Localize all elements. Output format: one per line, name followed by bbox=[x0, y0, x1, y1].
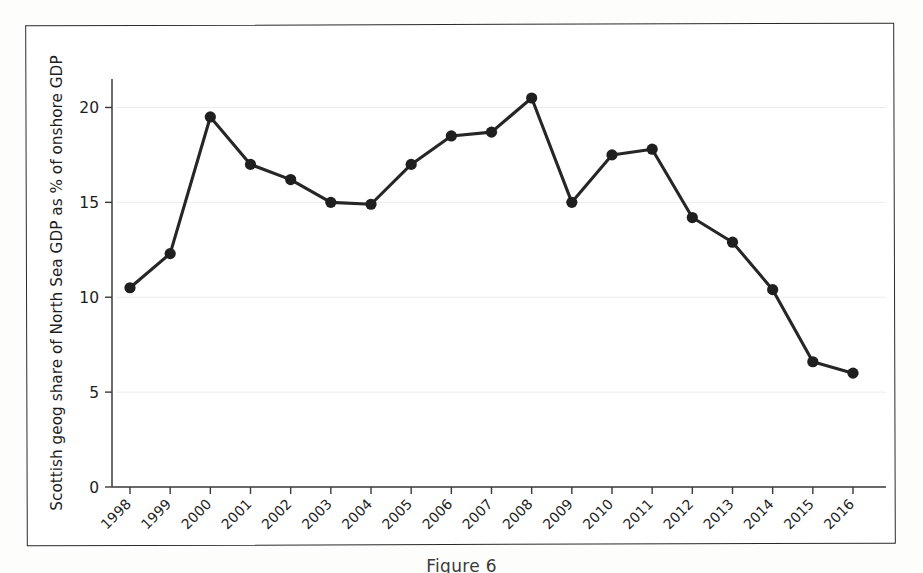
data-point-marker bbox=[727, 237, 738, 248]
line-chart: 05101520 1998199920002001200220032004200… bbox=[0, 0, 923, 573]
data-point-marker bbox=[365, 199, 376, 210]
data-point-marker bbox=[566, 197, 577, 208]
data-point-marker bbox=[807, 356, 818, 367]
data-point-marker bbox=[486, 127, 497, 138]
data-point-marker bbox=[205, 111, 216, 122]
data-point-marker bbox=[406, 159, 417, 170]
y-tick-label: 15 bbox=[79, 194, 99, 212]
data-point-marker bbox=[285, 174, 296, 185]
x-tick-label: 2016 bbox=[821, 496, 858, 533]
x-tick-label: 2015 bbox=[780, 496, 817, 533]
x-tick-label: 2001 bbox=[218, 496, 255, 533]
chart-container: 05101520 1998199920002001200220032004200… bbox=[0, 0, 923, 573]
x-tick-label: 2013 bbox=[700, 496, 737, 533]
x-tick-label: 2000 bbox=[178, 496, 215, 533]
y-axis-label-text: Scottish geog share of North Sea GDP as … bbox=[48, 55, 66, 510]
x-tick-label: 2005 bbox=[379, 496, 416, 533]
x-tick-label: 2003 bbox=[298, 496, 335, 533]
data-point-marker bbox=[647, 144, 658, 155]
x-tick-label: 2014 bbox=[740, 496, 777, 533]
x-tick-label: 1998 bbox=[98, 496, 135, 533]
data-point-marker bbox=[847, 368, 858, 379]
x-tick-label: 2006 bbox=[419, 496, 456, 533]
y-tick-label: 5 bbox=[89, 384, 99, 402]
data-point-marker bbox=[124, 282, 135, 293]
x-tick-label: 2010 bbox=[580, 496, 617, 533]
x-tick-label: 2008 bbox=[499, 496, 536, 533]
data-point-marker bbox=[606, 149, 617, 160]
data-point-marker bbox=[165, 248, 176, 259]
data-point-marker bbox=[245, 159, 256, 170]
data-point-marker bbox=[526, 92, 537, 103]
y-tick-label: 0 bbox=[89, 479, 99, 497]
data-point-marker bbox=[687, 212, 698, 223]
figure-page: 05101520 1998199920002001200220032004200… bbox=[0, 0, 923, 573]
y-axis-title: Scottish geog share of North Sea GDP as … bbox=[48, 55, 66, 510]
data-series-line bbox=[130, 98, 853, 373]
x-tick-label: 2007 bbox=[459, 496, 496, 533]
x-axis-ticks: 1998199920002001200220032004200520062007… bbox=[98, 487, 858, 532]
x-tick-label: 2004 bbox=[339, 496, 376, 533]
x-tick-label: 2012 bbox=[660, 496, 697, 533]
x-tick-label: 2009 bbox=[539, 496, 576, 533]
figure-caption: Figure 6 bbox=[0, 556, 923, 573]
x-tick-label: 2011 bbox=[620, 496, 657, 533]
y-axis-ticks: 05101520 bbox=[79, 99, 112, 497]
data-point-marker bbox=[325, 197, 336, 208]
gridlines bbox=[116, 107, 886, 487]
data-point-markers bbox=[124, 92, 858, 378]
y-tick-label: 10 bbox=[79, 289, 99, 307]
x-tick-label: 2002 bbox=[258, 496, 295, 533]
data-point-marker bbox=[446, 130, 457, 141]
x-tick-label: 1999 bbox=[138, 496, 175, 533]
y-tick-label: 20 bbox=[79, 99, 99, 117]
data-point-marker bbox=[767, 284, 778, 295]
